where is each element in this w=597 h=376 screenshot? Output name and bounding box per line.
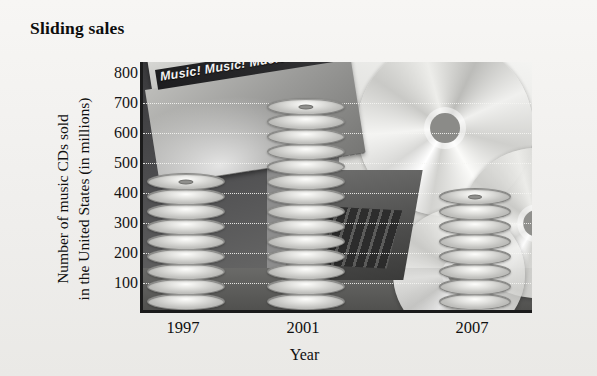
y-axis-tick-500: 500	[96, 155, 138, 171]
compact-disc	[439, 248, 511, 265]
y-axis-tick-800: 800	[96, 65, 138, 81]
compact-disc	[267, 143, 345, 160]
x-axis-tick-2007: 2007	[456, 318, 489, 338]
compact-disc	[147, 233, 225, 250]
y-axis-tick-400: 400	[96, 185, 138, 201]
compact-disc	[439, 293, 511, 310]
y-axis-title-line-2: in the United States (in millions)	[73, 54, 94, 344]
bar-2001	[267, 100, 345, 310]
background-cd-case-title: Music! Music! Music!	[159, 62, 359, 84]
compact-disc	[439, 233, 511, 250]
chart-figure: Sliding sales Number of music CDs sold i…	[0, 0, 597, 376]
compact-disc	[267, 278, 345, 295]
compact-disc	[147, 278, 225, 295]
compact-disc	[439, 203, 511, 220]
bar-2007	[439, 190, 511, 310]
compact-disc	[147, 248, 225, 265]
y-axis-tick-700: 700	[96, 95, 138, 111]
compact-disc	[267, 128, 345, 145]
chart-title: Sliding sales	[30, 18, 125, 39]
compact-disc	[147, 263, 225, 280]
compact-disc	[439, 278, 511, 295]
compact-disc	[267, 233, 345, 250]
y-axis-tick-100: 100	[96, 275, 138, 291]
y-axis-title: Number of music CDs sold in the United S…	[52, 54, 94, 344]
x-axis-title: Year	[0, 346, 597, 364]
compact-disc	[267, 218, 345, 235]
compact-disc	[147, 293, 225, 310]
compact-disc	[147, 173, 225, 190]
compact-disc	[267, 263, 345, 280]
compact-disc	[147, 203, 225, 220]
compact-disc	[267, 113, 345, 130]
x-axis-title-label: Year	[290, 346, 319, 363]
y-axis-tick-300: 300	[96, 215, 138, 231]
y-axis-title-line-1: Number of music CDs sold	[52, 54, 73, 344]
compact-disc	[267, 158, 345, 175]
compact-disc	[147, 218, 225, 235]
y-axis-tick-labels: 100200300400500600700800	[96, 60, 138, 320]
compact-disc	[267, 293, 345, 310]
compact-disc	[439, 263, 511, 280]
compact-disc	[267, 248, 345, 265]
compact-disc	[267, 173, 345, 190]
compact-disc	[267, 98, 345, 115]
plot-area: Music! Music! Music!	[140, 62, 532, 313]
compact-disc	[147, 188, 225, 205]
bar-1997	[147, 175, 225, 310]
x-axis-tick-1997: 1997	[167, 318, 200, 338]
compact-disc	[439, 218, 511, 235]
y-axis-tick-200: 200	[96, 245, 138, 261]
y-axis-tick-600: 600	[96, 125, 138, 141]
x-axis-tick-2001: 2001	[287, 318, 320, 338]
x-axis-tick-labels: 199720012007	[140, 318, 532, 344]
compact-disc	[439, 188, 511, 205]
compact-disc	[267, 188, 345, 205]
compact-disc	[267, 203, 345, 220]
